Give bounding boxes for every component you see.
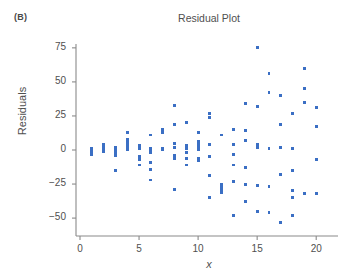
- data-point: [315, 158, 318, 161]
- data-point: [102, 150, 105, 153]
- data-point: [291, 169, 294, 172]
- data-point: [268, 185, 271, 188]
- data-point: [126, 143, 129, 146]
- x-tick-label: 0: [65, 243, 95, 254]
- data-point: [303, 192, 306, 195]
- data-point: [173, 188, 176, 191]
- data-point: [197, 146, 200, 149]
- data-point: [244, 139, 247, 142]
- data-point: [291, 112, 294, 115]
- data-point: [232, 164, 235, 167]
- data-point: [161, 128, 164, 131]
- data-point: [185, 157, 188, 160]
- data-point: [114, 169, 117, 172]
- y-tick-label: 25: [36, 109, 66, 120]
- y-tick-label: −25: [36, 177, 66, 188]
- data-point: [149, 149, 152, 152]
- x-tick-label: 5: [124, 243, 154, 254]
- data-point: [185, 151, 188, 154]
- data-point: [102, 144, 105, 147]
- data-point: [90, 149, 93, 152]
- data-point: [208, 196, 211, 199]
- data-point: [244, 166, 247, 169]
- data-point: [220, 191, 223, 194]
- data-point: [185, 121, 188, 124]
- data-point: [279, 221, 282, 224]
- data-point: [220, 185, 223, 188]
- data-point: [303, 87, 306, 90]
- data-point: [303, 101, 306, 104]
- data-point: [102, 147, 105, 150]
- data-point: [149, 151, 152, 154]
- data-point: [315, 192, 318, 195]
- data-point: [220, 134, 223, 137]
- data-point: [291, 196, 294, 199]
- data-point: [138, 144, 141, 147]
- data-point: [291, 147, 294, 150]
- data-point: [303, 67, 306, 70]
- y-tick-label: −50: [36, 211, 66, 222]
- data-point: [244, 129, 247, 132]
- data-point: [138, 164, 141, 167]
- data-point: [256, 146, 259, 149]
- axis-ticks: [72, 48, 316, 240]
- data-point: [114, 151, 117, 154]
- data-point: [126, 140, 129, 143]
- data-point: [138, 158, 141, 161]
- data-point: [149, 179, 152, 182]
- data-point: [256, 46, 259, 49]
- data-point: [90, 153, 93, 156]
- y-tick-label: 75: [36, 41, 66, 52]
- data-point: [279, 123, 282, 126]
- y-tick-label: 0: [36, 143, 66, 154]
- data-point: [197, 149, 200, 152]
- data-point: [138, 147, 141, 150]
- data-point: [126, 149, 129, 152]
- data-point: [173, 142, 176, 145]
- data-point: [126, 138, 129, 141]
- data-point: [291, 189, 294, 192]
- data-point: [279, 146, 282, 149]
- data-point: [114, 146, 117, 149]
- data-point: [232, 128, 235, 131]
- data-point: [256, 210, 259, 213]
- data-point: [232, 153, 235, 156]
- data-point: [173, 157, 176, 160]
- data-point: [138, 155, 141, 158]
- data-point: [279, 173, 282, 176]
- data-point: [197, 157, 200, 160]
- data-point: [126, 131, 129, 134]
- data-point: [114, 149, 117, 152]
- residual-plot-figure: (B) Residual Plot Residuals x −50−250255…: [0, 0, 346, 280]
- data-point: [208, 143, 211, 146]
- data-point: [208, 112, 211, 115]
- data-point: [244, 102, 247, 105]
- y-tick-label: 50: [36, 75, 66, 86]
- data-point: [232, 143, 235, 146]
- x-tick-label: 15: [242, 243, 272, 254]
- data-point: [220, 183, 223, 186]
- axes: [76, 44, 338, 236]
- data-point: [197, 159, 200, 162]
- data-point: [173, 104, 176, 107]
- data-point: [149, 134, 152, 137]
- data-point: [315, 106, 318, 109]
- scatter-points: [90, 46, 317, 223]
- data-point: [291, 214, 294, 217]
- data-point: [173, 154, 176, 157]
- data-point: [149, 161, 152, 164]
- data-point: [197, 131, 200, 134]
- data-point: [256, 184, 259, 187]
- x-tick-label: 10: [183, 243, 213, 254]
- data-point: [232, 180, 235, 183]
- data-point: [279, 94, 282, 97]
- data-point: [185, 147, 188, 150]
- data-point: [149, 168, 152, 171]
- data-point: [244, 200, 247, 203]
- data-point: [161, 149, 164, 152]
- data-point: [268, 91, 271, 94]
- data-point: [268, 211, 271, 214]
- data-point: [268, 147, 271, 150]
- data-point: [256, 105, 259, 108]
- data-point: [173, 123, 176, 126]
